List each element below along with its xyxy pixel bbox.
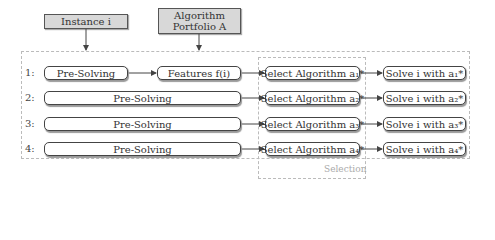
presolve-node-2: Pre-Solving — [44, 91, 241, 105]
row-label-2: 2: — [25, 92, 35, 103]
row-label-3: 3: — [25, 118, 35, 129]
select-node-2: Select Algorithm a₂* — [265, 91, 360, 105]
row-label-1: 1: — [25, 67, 35, 78]
row-label-4: 4: — [25, 143, 35, 154]
presolve-node-3: Pre-Solving — [44, 117, 241, 131]
solve-node-3: Solve i with a₃* — [383, 117, 466, 131]
features-node: Features f(i) — [157, 66, 241, 80]
presolve-node-4: Pre-Solving — [44, 142, 241, 156]
presolve-node-1: Pre-Solving — [44, 66, 128, 80]
solve-node-1: Solve i with a₁* — [383, 66, 466, 80]
select-node-1: Select Algorithm a₁* — [265, 66, 360, 80]
solve-node-4: Solve i with a₄* — [383, 142, 466, 156]
select-node-4: Select Algorithm a₄* — [265, 142, 360, 156]
select-node-3: Select Algorithm a₃* — [265, 117, 360, 131]
solve-node-2: Solve i with a₂* — [383, 91, 466, 105]
